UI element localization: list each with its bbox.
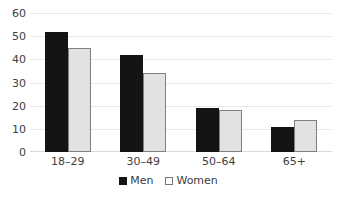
bar-women [219,110,242,152]
x-tick-label: 30–49 [127,155,161,169]
x-tick-label: 18–29 [51,155,85,169]
bar-women [294,120,317,152]
bar-men [45,32,68,152]
y-tick-label: 0 [19,147,26,158]
bar-women [68,48,91,152]
legend-item-men: Men [119,175,153,187]
bar-women [143,73,166,152]
y-tick-label: 50 [12,31,26,42]
y-tick-label: 60 [12,8,26,19]
bar-group [271,13,317,152]
y-axis: 60 50 40 30 20 10 0 [0,13,26,152]
outlined-square-marker-icon [165,177,173,185]
y-tick-label: 20 [12,100,26,111]
legend-label: Women [176,175,217,187]
legend-item-women: Women [165,175,217,187]
bar-men [271,127,294,152]
filled-square-marker-icon [119,177,127,185]
bar-group [45,13,91,152]
plot-area [30,13,332,152]
x-tick-label: 65+ [283,155,306,169]
chart-legend: Men Women [0,175,337,187]
x-tick-label: 50–64 [202,155,236,169]
bar-chart: 60 50 40 30 20 10 0 [0,0,337,202]
y-tick-label: 10 [12,123,26,134]
bar-men [196,108,219,152]
y-tick-label: 40 [12,54,26,65]
y-tick-label: 30 [12,77,26,88]
bar-groups [30,13,332,152]
bar-group [196,13,242,152]
bar-group [120,13,166,152]
x-axis: 18–29 30–49 50–64 65+ [30,155,332,171]
bar-men [120,55,143,152]
legend-label: Men [130,175,153,187]
bottom-caption-fragment [0,196,337,202]
